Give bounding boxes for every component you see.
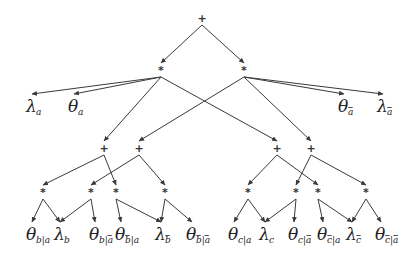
theta-symbol: θ bbox=[338, 96, 348, 116]
product-node-p_c4: * bbox=[363, 186, 369, 199]
edge-root-to-m_na bbox=[202, 25, 244, 63]
edge-m_a-to-lam_a bbox=[32, 77, 161, 94]
subscript: b bbox=[64, 235, 70, 245]
operator-nodes-layer: +**++++******** bbox=[40, 12, 369, 199]
theta-symbol: θ bbox=[375, 224, 385, 244]
leaf-th_nc_a: θc|a bbox=[317, 224, 340, 246]
lambda-symbol: λ bbox=[154, 224, 166, 244]
theta-symbol: θ bbox=[89, 224, 99, 244]
edge-p_b3-to-lam_nb bbox=[116, 199, 161, 222]
sum-node-s_b2: + bbox=[134, 142, 143, 155]
subscript: b|a bbox=[196, 235, 210, 246]
edge-p_b4-to-th_nb_na bbox=[165, 199, 192, 222]
edge-s_c1-to-p_c3 bbox=[277, 155, 318, 185]
leaf-labels-layer: λaθaθaλaθb|aλbθb|aθb|aλbθb|aθc|aλcθc|aθc… bbox=[25, 96, 398, 246]
leaf-lam_nb: λb bbox=[154, 224, 171, 245]
subscript: c|a bbox=[298, 235, 311, 246]
edge-p_c3-to-lam_nc bbox=[318, 199, 352, 222]
arithmetic-circuit-diagram: +**++++******** λaθaθaλaθb|aλbθb|aθb|aλb… bbox=[0, 0, 414, 271]
subscript: c|a bbox=[238, 235, 251, 246]
leaf-th_nb_a: θb|a bbox=[115, 224, 139, 246]
leaf-th_b_na: θb|a bbox=[89, 224, 113, 246]
product-node-p_b4: * bbox=[162, 186, 168, 199]
theta-symbol: θ bbox=[288, 224, 298, 244]
subscript: b|a bbox=[125, 235, 139, 246]
leaf-th_a: θa bbox=[68, 96, 83, 117]
edge-p_c2-to-th_c_na bbox=[294, 199, 296, 222]
edge-m_na-to-lam_na bbox=[244, 77, 383, 94]
subscript: a bbox=[36, 107, 41, 117]
edge-m_na-to-s_b2 bbox=[139, 77, 244, 141]
theta-symbol: θ bbox=[68, 96, 78, 116]
edge-p_c2-to-lam_c bbox=[265, 199, 296, 222]
edge-s_b1-to-p_b1 bbox=[43, 155, 104, 185]
theta-symbol: θ bbox=[115, 224, 125, 244]
lambda-symbol: λ bbox=[345, 224, 357, 244]
product-node-p_b2: * bbox=[88, 186, 94, 199]
subscript: c bbox=[356, 235, 361, 245]
edge-p_b3-to-th_nb_a bbox=[116, 199, 121, 222]
edge-m_a-to-s_c1 bbox=[161, 77, 277, 141]
leaf-th_c_na: θc|a bbox=[288, 224, 311, 246]
lambda-symbol: λ bbox=[25, 96, 37, 116]
edge-p_b2-to-lam_b bbox=[60, 199, 91, 222]
product-node-p_c2: * bbox=[293, 186, 299, 199]
subscript: c|a bbox=[385, 235, 398, 246]
leaf-lam_b: λb bbox=[53, 224, 70, 245]
edge-p_c4-to-lam_nc bbox=[352, 199, 366, 222]
leaf-th_nc_na: θc|a bbox=[375, 224, 398, 246]
lambda-symbol: λ bbox=[258, 224, 270, 244]
leaf-lam_a: λa bbox=[25, 96, 41, 117]
leaf-lam_nc: λc bbox=[345, 224, 361, 245]
subscript: c|a bbox=[327, 235, 340, 246]
subscript: a bbox=[387, 107, 392, 117]
edge-p_c1-to-lam_c bbox=[248, 199, 265, 222]
subscript: b|a bbox=[99, 235, 113, 246]
edge-p_b1-to-th_b_a bbox=[32, 199, 43, 222]
edge-s_b2-to-p_b2 bbox=[91, 155, 139, 185]
leaf-th_c_a: θc|a bbox=[228, 224, 251, 246]
subscript: c bbox=[269, 235, 274, 245]
edge-p_c4-to-th_nc_na bbox=[366, 199, 381, 222]
subscript: a bbox=[78, 107, 83, 117]
leaf-lam_c: λc bbox=[258, 224, 274, 245]
leaf-th_na: θa bbox=[338, 96, 353, 117]
theta-symbol: θ bbox=[186, 224, 196, 244]
lambda-symbol: λ bbox=[376, 96, 388, 116]
sum-node-root: + bbox=[197, 12, 206, 25]
leaf-lam_na: λa bbox=[376, 96, 392, 117]
sum-node-s_c2: + bbox=[306, 142, 315, 155]
edge-p_b1-to-lam_b bbox=[43, 199, 60, 222]
product-node-m_a: * bbox=[158, 64, 164, 77]
edge-root-to-m_a bbox=[161, 25, 202, 63]
product-node-p_c3: * bbox=[315, 186, 321, 199]
edge-s_c2-to-p_c4 bbox=[311, 155, 366, 185]
product-node-p_b3: * bbox=[113, 186, 119, 199]
subscript: b bbox=[165, 235, 171, 245]
theta-symbol: θ bbox=[228, 224, 238, 244]
lambda-symbol: λ bbox=[53, 224, 65, 244]
subscript: a bbox=[348, 107, 353, 117]
subscript: b|a bbox=[36, 235, 50, 246]
edge-p_b4-to-lam_nb bbox=[161, 199, 165, 222]
theta-symbol: θ bbox=[317, 224, 327, 244]
edge-p_b2-to-th_b_na bbox=[91, 199, 95, 222]
edge-s_c1-to-p_c1 bbox=[248, 155, 277, 185]
leaf-th_b_a: θb|a bbox=[26, 224, 50, 246]
edges-layer bbox=[32, 25, 383, 222]
leaf-th_nb_na: θb|a bbox=[186, 224, 210, 246]
product-node-m_na: * bbox=[241, 64, 247, 77]
product-node-p_c1: * bbox=[245, 186, 251, 199]
sum-node-s_c1: + bbox=[272, 142, 281, 155]
product-node-p_b1: * bbox=[40, 186, 46, 199]
sum-node-s_b1: + bbox=[99, 142, 108, 155]
theta-symbol: θ bbox=[26, 224, 36, 244]
edge-p_c1-to-th_c_a bbox=[234, 199, 248, 222]
edge-s_b2-to-p_b4 bbox=[139, 155, 165, 185]
